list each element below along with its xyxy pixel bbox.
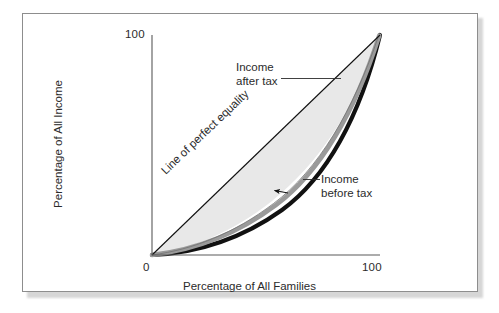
- income-before-tax-label-line2: before tax: [321, 187, 372, 199]
- figure-panel: [22, 13, 478, 292]
- income-before-tax-label: Incomebefore tax: [321, 173, 372, 200]
- income-after-tax-label-line1: Income: [236, 61, 274, 73]
- x-axis-title: Percentage of All Families: [0, 280, 499, 292]
- x-axis-tick-0: 0: [143, 261, 150, 273]
- income-before-tax-label-line1: Income: [321, 173, 359, 185]
- y-axis-title: Percentage of All Income: [52, 34, 64, 254]
- figure-root: 100 0 100 Percentage of All Families Per…: [0, 0, 499, 313]
- x-axis-tick-100: 100: [362, 261, 382, 273]
- y-axis-tick-100: 100: [125, 28, 145, 40]
- income-after-tax-label-line2: after tax: [236, 75, 278, 87]
- income-after-tax-label: Incomeafter tax: [236, 61, 278, 88]
